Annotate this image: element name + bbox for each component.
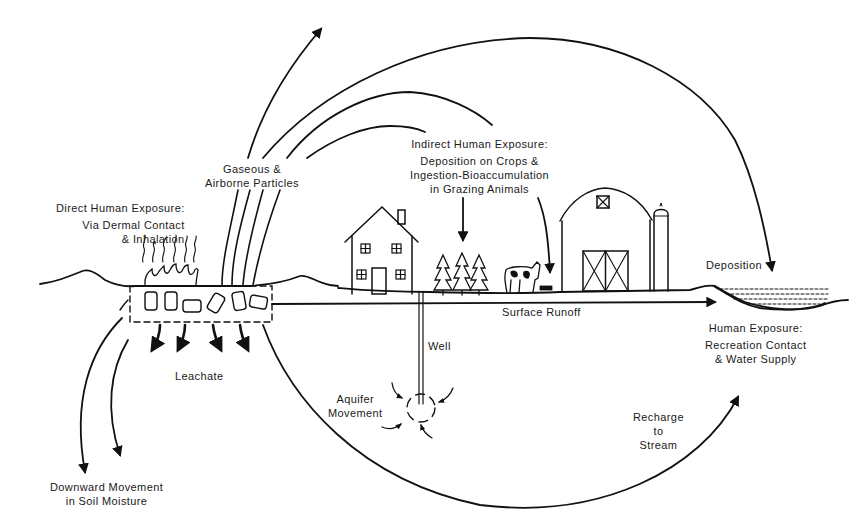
indirect-exposure-label: Indirect Human Exposure: Deposition on C… [410,137,549,196]
deposition-label: Deposition [706,258,762,272]
flames [145,264,198,285]
aquifer-circle [407,394,435,422]
silo [654,203,668,291]
aquifer-movement-label: Aquifer Movement [328,392,383,420]
waste-left-curve [120,300,128,310]
well-label: Well [428,339,451,353]
water-waves [720,289,828,304]
gaseous-particles-label: Gaseous & Airborne Particles [205,162,299,190]
cow [505,262,540,293]
house [345,207,418,294]
gaseous-emission-lines [222,190,280,285]
leachate-label: Leachate [175,369,223,383]
downward-movement-label: Downward Movement in Soil Moisture [50,480,163,508]
surface-runoff-label: Surface Runoff [502,305,581,319]
aquifer-arrow-2 [439,388,453,402]
soil-moisture-arrow-2 [111,340,128,455]
stream-bed [715,287,825,310]
water-exposure-label: Human Exposure: Recreation Contact & Wat… [705,321,806,366]
direct-exposure-label: Direct Human Exposure: Via Dermal Contac… [56,201,185,246]
animal-feed-arrow [538,198,550,272]
crops-trees [434,253,488,295]
waste-drums [145,291,268,314]
surface-runoff-arrow [272,302,715,304]
aquifer-arrow-3 [382,424,401,429]
aquifer-arrow-1 [392,383,402,398]
aquifer-arrow-4 [421,425,432,438]
atmosphere-arrow [248,29,321,158]
feed-pile [540,286,552,290]
soil-moisture-arrow-1 [81,318,122,472]
barn [560,188,652,291]
leachate-arrows [152,325,248,350]
recharge-stream-label: Recharge to Stream [633,410,684,452]
crop-deposition-arc-2 [307,126,425,158]
